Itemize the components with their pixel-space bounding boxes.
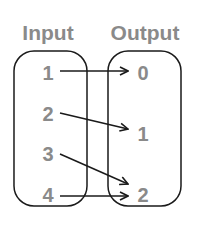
output-value: 1 [137,123,148,145]
output-value: 0 [137,62,148,84]
input-title: Input [22,21,73,44]
mapping-arrow-3-to-2 [60,154,128,184]
input-value: 3 [42,143,53,165]
input-value: 4 [42,184,54,206]
output-value: 2 [137,184,148,206]
input-value: 2 [42,103,53,125]
mapping-arrow-2-to-1 [60,113,128,129]
input-value: 1 [42,62,53,84]
mapping-diagram: Input Output 1 2 3 4 0 1 2 [0,0,198,238]
output-title: Output [111,21,180,44]
